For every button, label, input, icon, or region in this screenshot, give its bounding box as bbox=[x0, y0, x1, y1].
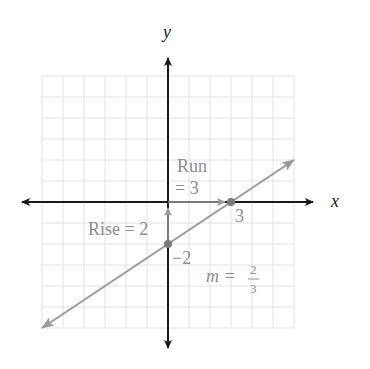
run-label: Run bbox=[177, 156, 207, 176]
y-intercept-label: −2 bbox=[172, 248, 191, 268]
x-axis-label: x bbox=[330, 191, 339, 211]
slope-label: m = bbox=[206, 266, 236, 286]
slope-denominator: 3 bbox=[250, 281, 257, 296]
y-intercept-point bbox=[164, 240, 172, 248]
y-axis-label: y bbox=[161, 22, 171, 42]
rise-label: Rise = 2 bbox=[88, 219, 148, 239]
slope-numerator: 2 bbox=[250, 262, 257, 277]
run-value-label: = 3 bbox=[175, 178, 199, 198]
slope-diagram: y x Run = 3 Rise = 2 3 −2 m = 2 3 bbox=[0, 0, 370, 369]
x-intercept-label: 3 bbox=[235, 206, 244, 226]
x-intercept-point bbox=[227, 198, 235, 206]
coordinate-plane: y x Run = 3 Rise = 2 3 −2 m = 2 3 bbox=[0, 0, 370, 369]
